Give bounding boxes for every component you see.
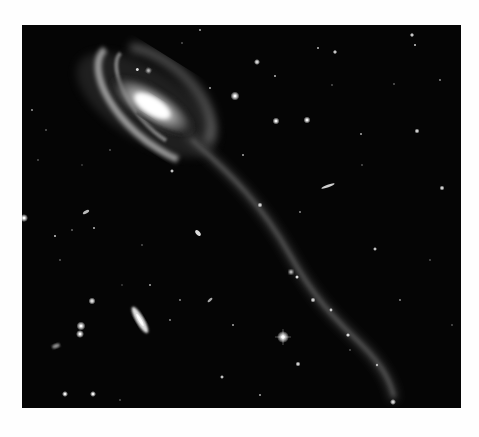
- galaxy-photo: [22, 25, 461, 408]
- galaxy-image: [22, 25, 461, 408]
